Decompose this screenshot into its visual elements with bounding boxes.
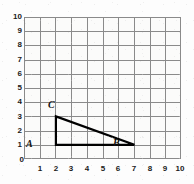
y-tick-10: 10 — [2, 12, 22, 21]
x-tick-10: 10 — [172, 164, 188, 173]
x-tick-6: 6 — [110, 164, 126, 173]
vertex-label-c: C — [48, 100, 55, 110]
x-tick-7: 7 — [126, 164, 142, 173]
triangle-abc — [24, 17, 181, 159]
y-tick-1: 1 — [2, 140, 22, 149]
x-tick-2: 2 — [48, 164, 64, 173]
y-tick-6: 6 — [2, 69, 22, 78]
y-tick-4: 4 — [2, 97, 22, 106]
triangle-outline — [56, 116, 134, 144]
y-tick-7: 7 — [2, 55, 22, 64]
coordinate-grid-figure: A B C 10 9 8 7 6 5 4 3 2 1 0 1 2 3 4 5 6… — [0, 0, 194, 184]
x-tick-8: 8 — [142, 164, 158, 173]
x-tick-3: 3 — [63, 164, 79, 173]
y-tick-8: 8 — [2, 40, 22, 49]
vertex-label-a: A — [26, 139, 33, 149]
y-tick-3: 3 — [2, 112, 22, 121]
x-tick-5: 5 — [95, 164, 111, 173]
x-tick-1: 1 — [32, 164, 48, 173]
vertex-label-b: B — [113, 138, 120, 148]
x-tick-9: 9 — [157, 164, 173, 173]
y-tick-9: 9 — [2, 26, 22, 35]
y-tick-5: 5 — [2, 83, 22, 92]
origin-label: 0 — [4, 155, 24, 164]
y-tick-2: 2 — [2, 126, 22, 135]
x-tick-4: 4 — [79, 164, 95, 173]
shape-layer: A B C — [24, 17, 181, 159]
